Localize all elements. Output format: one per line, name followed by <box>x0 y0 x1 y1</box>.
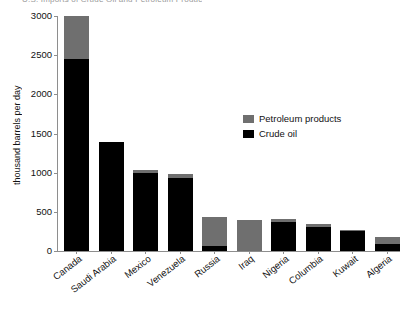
bar-group <box>168 16 201 251</box>
bar-stack <box>64 16 89 251</box>
bar-stack <box>340 230 365 251</box>
bar-segment-crude-oil <box>133 173 158 251</box>
x-axis-labels: CanadaSaudi ArabiaMexicoVenezuelaRussiaI… <box>58 253 401 315</box>
bar-stack <box>375 237 400 251</box>
bar-stack <box>237 220 262 251</box>
y-tick-mark <box>54 134 57 135</box>
y-tick-mark <box>54 16 57 17</box>
bar-stack <box>168 174 193 251</box>
legend-item-crude-oil: Crude oil <box>243 127 341 140</box>
bar-group <box>133 16 166 251</box>
y-tick-mark <box>54 251 57 252</box>
bar-group <box>99 16 132 251</box>
bar-stack <box>271 219 296 251</box>
bar-segment-crude-oil <box>271 222 296 251</box>
bar-segment-crude-oil <box>168 178 193 251</box>
legend-swatch-icon-petroleum-products <box>243 115 254 123</box>
legend-label-petroleum-products: Petroleum products <box>259 113 341 124</box>
bar-segment-crude-oil <box>306 227 331 251</box>
bar-stack <box>99 142 124 251</box>
plot-area: 050010001500200025003000 <box>57 16 400 251</box>
bar-series-group <box>58 16 400 251</box>
y-tick-mark <box>54 173 57 174</box>
bar-segment-crude-oil <box>340 231 365 251</box>
bar-segment-crude-oil <box>99 142 124 251</box>
bar-segment-petroleum-products <box>64 16 89 59</box>
y-tick-mark <box>54 55 57 56</box>
clipped-title: U.S. Imports of Crude Oil and Petroleum … <box>22 0 202 4</box>
bar-stack <box>306 224 331 251</box>
bar-segment-crude-oil <box>64 59 89 251</box>
bar-stack <box>133 170 158 251</box>
y-axis-label: thousand barrels per day <box>10 50 24 220</box>
bar-stack <box>202 217 227 251</box>
bar-segment-petroleum-products <box>237 220 262 251</box>
chart-legend: Petroleum products Crude oil <box>243 112 341 142</box>
bar-segment-crude-oil <box>375 244 400 251</box>
y-tick-mark <box>54 212 57 213</box>
bar-group <box>202 16 235 251</box>
bar-segment-petroleum-products <box>202 217 227 246</box>
legend-label-crude-oil: Crude oil <box>259 128 297 139</box>
chart-figure: U.S. Imports of Crude Oil and Petroleum … <box>0 0 415 318</box>
bar-segment-petroleum-products <box>375 237 400 244</box>
bar-group <box>375 16 408 251</box>
x-axis-line <box>57 251 400 252</box>
bar-group <box>64 16 97 251</box>
legend-swatch-icon-crude-oil <box>243 130 254 138</box>
bar-group <box>340 16 373 251</box>
legend-item-petroleum-products: Petroleum products <box>243 112 341 125</box>
y-tick-mark <box>54 94 57 95</box>
